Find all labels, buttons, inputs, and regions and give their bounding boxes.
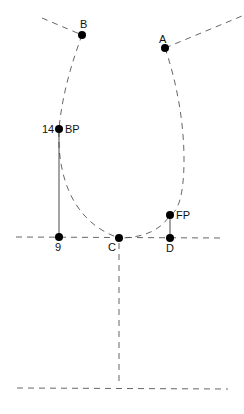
label-fp: FP [176,209,190,221]
back-shoulder-line [42,18,82,35]
point-fp [166,211,174,219]
point-9 [55,233,63,241]
point-c [115,234,123,242]
point-b [78,31,86,39]
label-a: A [159,33,167,45]
label-c: C [108,241,116,253]
label-9: 9 [55,241,61,253]
point-d [166,234,174,242]
front-shoulder-line [165,16,242,48]
back-neckline-curve [59,35,119,238]
pattern-diagram: B A 14 BP 9 C D FP [0,0,244,414]
label-b: B [80,18,87,30]
front-neckline-curve [119,48,184,238]
label-bp-number: 14 [42,123,54,135]
point-bp [55,125,63,133]
bottom-guide-line [17,388,228,389]
label-d: D [166,242,174,254]
label-bp: BP [65,123,80,135]
point-a [161,44,169,52]
